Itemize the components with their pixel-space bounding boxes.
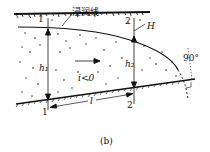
phreatic-leader <box>62 14 72 26</box>
depth-h1-label: h₁ <box>39 64 48 73</box>
section-2-top-label: 2 <box>125 17 131 26</box>
phreatic-line-dashed-end <box>178 70 188 100</box>
section-1-top-label: 1 <box>38 15 44 24</box>
slope-label: i<0 <box>78 74 94 83</box>
phreatic-line-label: 浸润线 <box>72 8 99 17</box>
section-1-bottom-label: 1 <box>42 108 48 117</box>
distance-label: l <box>90 97 93 106</box>
seepage-diagram <box>0 0 210 152</box>
figure-caption: (b) <box>100 137 113 146</box>
section-2-bottom-label: 2 <box>127 101 133 110</box>
head-leader <box>134 24 145 31</box>
angle-label: 90° <box>183 54 199 63</box>
bottom-bed <box>16 79 195 107</box>
depth-h2-label: h₂ <box>125 60 134 69</box>
head-label: H <box>147 22 155 31</box>
flow-arrow <box>75 59 100 64</box>
